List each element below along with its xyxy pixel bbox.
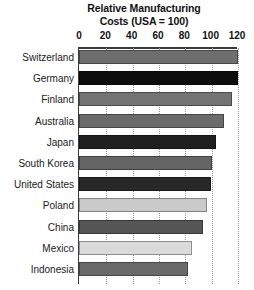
chart-title-line-2: Costs (USA = 100) xyxy=(40,15,248,28)
bar-row: Mexico xyxy=(0,239,254,260)
bar-poland xyxy=(79,198,207,212)
bar-japan xyxy=(79,135,216,149)
chart-title: Relative Manufacturing Costs (USA = 100) xyxy=(40,2,248,27)
category-label-japan: Japan xyxy=(0,136,74,150)
bar-australia xyxy=(79,114,224,128)
category-label-finland: Finland xyxy=(0,93,74,107)
x-tick-label-100: 100 xyxy=(202,30,219,41)
x-tick-label-20: 20 xyxy=(100,30,111,41)
bar-rows: SwitzerlandGermanyFinlandAustraliaJapanS… xyxy=(0,48,254,284)
bar-row: Poland xyxy=(0,196,254,217)
x-tick-label-40: 40 xyxy=(126,30,137,41)
category-label-china: China xyxy=(0,221,74,235)
x-tick-label-80: 80 xyxy=(179,30,190,41)
chart-title-line-1: Relative Manufacturing xyxy=(40,2,248,15)
x-axis-tick-labels: 020406080100120 xyxy=(0,30,254,43)
bar-row: China xyxy=(0,218,254,239)
category-label-south-korea: South Korea xyxy=(0,157,74,171)
category-label-poland: Poland xyxy=(0,199,74,213)
bar-mexico xyxy=(79,241,192,255)
bar-germany xyxy=(79,71,238,85)
category-label-switzerland: Switzerland xyxy=(0,51,74,65)
bar-finland xyxy=(79,92,232,106)
bar-row: United States xyxy=(0,175,254,196)
bar-united-states xyxy=(79,177,211,191)
bar-china xyxy=(79,220,203,234)
bar-row: Germany xyxy=(0,69,254,90)
category-label-germany: Germany xyxy=(0,72,74,86)
bar-row: South Korea xyxy=(0,154,254,175)
bar-south-korea xyxy=(79,156,212,170)
category-label-australia: Australia xyxy=(0,115,74,129)
x-tick-label-60: 60 xyxy=(152,30,163,41)
category-label-mexico: Mexico xyxy=(0,242,74,256)
bar-row: Japan xyxy=(0,133,254,154)
manufacturing-costs-bar-chart: Relative Manufacturing Costs (USA = 100)… xyxy=(0,0,254,290)
bar-row: Switzerland xyxy=(0,48,254,69)
bar-indonesia xyxy=(79,262,188,276)
x-tick-label-120: 120 xyxy=(229,30,246,41)
bar-switzerland xyxy=(79,50,238,64)
bar-row: Australia xyxy=(0,112,254,133)
category-label-indonesia: Indonesia xyxy=(0,263,74,277)
category-label-united-states: United States xyxy=(0,178,74,192)
x-tick-label-0: 0 xyxy=(76,30,82,41)
bar-row: Finland xyxy=(0,90,254,111)
bar-row: Indonesia xyxy=(0,260,254,281)
